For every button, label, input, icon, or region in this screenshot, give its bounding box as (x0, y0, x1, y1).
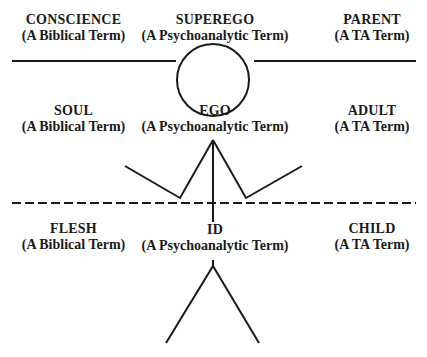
label-conscience: CONSCIENCE (A Biblical Term) (6, 12, 141, 44)
label-soul: SOUL (A Biblical Term) (6, 103, 141, 135)
label-title: CONSCIENCE (6, 12, 141, 28)
label-adult: ADULT (A TA Term) (322, 103, 422, 135)
label-subtitle: (A Psychoanalytic Term) (130, 119, 300, 135)
label-parent: PARENT (A TA Term) (322, 12, 422, 44)
label-title: SOUL (6, 103, 141, 119)
left-arm (125, 140, 213, 198)
label-title: FLESH (6, 221, 141, 237)
label-subtitle: (A TA Term) (322, 237, 422, 253)
legs (166, 266, 259, 343)
label-superego: SUPEREGO (A Psychoanalytic Term) (130, 12, 300, 44)
label-subtitle: (A Biblical Term) (6, 28, 141, 44)
label-id: ID (A Psychoanalytic Term) (130, 221, 300, 254)
label-subtitle: (A Psychoanalytic Term) (130, 238, 300, 254)
label-title: CHILD (322, 221, 422, 237)
label-title: PARENT (322, 12, 422, 28)
right-arm (213, 140, 302, 198)
label-title: SUPEREGO (130, 12, 300, 28)
label-subtitle: (A Biblical Term) (6, 119, 141, 135)
label-subtitle: (A Biblical Term) (6, 237, 141, 253)
label-flesh: FLESH (A Biblical Term) (6, 221, 141, 253)
stick-figure-diagram (0, 0, 427, 357)
label-subtitle: (A TA Term) (322, 28, 422, 44)
label-child: CHILD (A TA Term) (322, 221, 422, 253)
label-subtitle: (A Psychoanalytic Term) (130, 28, 300, 44)
label-title: ADULT (322, 103, 422, 119)
label-ego: EGO (A Psychoanalytic Term) (130, 103, 300, 135)
label-subtitle: (A TA Term) (322, 119, 422, 135)
label-title: ID (205, 222, 225, 238)
label-title: EGO (130, 103, 300, 119)
